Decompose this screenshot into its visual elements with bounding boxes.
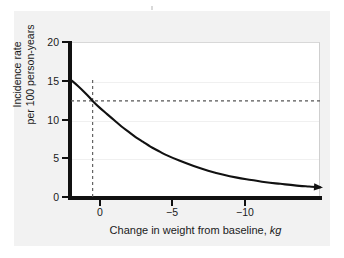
figure-screenshot: 20 15 10 5 0 0 −5 −10 Incidence rate per…	[0, 0, 344, 258]
curve-arrowhead	[314, 183, 323, 190]
incidence-rate-curve	[71, 80, 320, 187]
chart-vector-layer	[0, 0, 344, 258]
